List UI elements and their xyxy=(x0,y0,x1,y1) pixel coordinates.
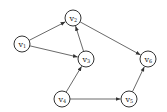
node-subscript: 1 xyxy=(23,43,26,49)
node-subscript: 5 xyxy=(130,98,133,104)
node-subscript: 4 xyxy=(63,98,66,104)
edge-v1-v2 xyxy=(29,22,65,41)
node-v3: v3 xyxy=(78,51,94,67)
node-subscript: 2 xyxy=(74,17,77,23)
node-v4: v4 xyxy=(54,91,70,107)
node-v5: v5 xyxy=(121,91,137,107)
node-subscript: 6 xyxy=(149,58,152,64)
edge-v5-v6 xyxy=(132,67,144,92)
node-v6: v6 xyxy=(140,51,156,67)
edge-v1-v3 xyxy=(30,46,78,57)
node-v1: v1 xyxy=(14,36,30,52)
edge-v3-v2 xyxy=(76,26,84,51)
directed-graph: v1v2v3v4v5v6 xyxy=(0,0,167,112)
edge-v2-v6 xyxy=(80,22,141,55)
node-subscript: 3 xyxy=(87,58,90,64)
edge-v4-v3 xyxy=(66,66,82,92)
node-v2: v2 xyxy=(65,10,81,26)
